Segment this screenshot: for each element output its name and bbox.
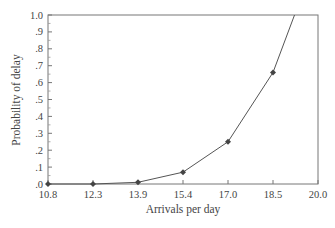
plot-frame — [48, 15, 318, 184]
y-tick-label: 1.0 — [30, 10, 43, 21]
y-tick-label: .8 — [35, 43, 43, 54]
x-axis-label: Arrivals per day — [146, 203, 221, 216]
y-tick-label: .3 — [35, 128, 43, 139]
data-series — [45, 15, 295, 187]
x-tick-label: 17.0 — [219, 189, 237, 200]
x-tick-label: 10.8 — [39, 189, 57, 200]
x-tick-label: 13.9 — [129, 189, 147, 200]
diamond-marker — [45, 181, 51, 187]
y-tick-label: .9 — [35, 26, 43, 37]
x-tick-label: 18.5 — [264, 189, 282, 200]
diamond-marker — [90, 181, 96, 187]
x-tick-label: 15.4 — [174, 189, 193, 200]
y-tick-label: .2 — [35, 145, 43, 156]
diamond-marker — [270, 69, 276, 75]
y-tick-label: .4 — [35, 111, 44, 122]
y-axis-label: Probability of delay — [10, 54, 23, 146]
diamond-marker — [225, 139, 231, 145]
x-tick-label: 12.3 — [84, 189, 102, 200]
y-axis-ticks: .0.1.2.3.4.5.6.7.8.91.0 — [30, 10, 52, 190]
y-tick-label: .5 — [35, 94, 43, 105]
line-chart: .0.1.2.3.4.5.6.7.8.91.0 10.812.313.915.4… — [0, 0, 335, 228]
y-tick-label: .7 — [35, 60, 43, 71]
x-tick-label: 20.0 — [309, 189, 327, 200]
series-line — [48, 15, 295, 184]
x-axis-ticks: 10.812.313.915.417.018.520.0 — [39, 180, 327, 200]
y-tick-label: .6 — [35, 77, 43, 88]
y-tick-label: .0 — [35, 179, 43, 190]
y-tick-label: .1 — [35, 162, 43, 173]
diamond-marker — [180, 169, 186, 175]
